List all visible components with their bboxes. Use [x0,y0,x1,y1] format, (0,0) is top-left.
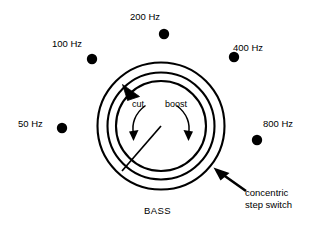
freq-label-200-hz: 200 Hz [130,11,160,22]
cut-arrow-head [129,130,139,141]
freq-label-50-hz: 50 Hz [18,118,43,129]
step-switch-callout-line2: step switch [245,199,292,210]
step-dot-400-hz[interactable] [229,52,239,62]
step-position-group: 50 Hz100 Hz200 Hz400 Hz800 Hz [18,11,293,145]
cut-arc-arrow [133,106,146,134]
cut-label: cut [132,99,145,109]
freq-label-100-hz: 100 Hz [52,38,82,49]
boost-arrow-head [184,130,194,141]
boost-arc-arrow [177,106,190,134]
callout-shaft [222,174,246,191]
step-switch-callout-line1: concentric [245,187,289,198]
step-dot-200-hz[interactable] [159,29,169,39]
step-dot-50-hz[interactable] [57,123,67,133]
knob-pointer-line [122,126,161,171]
freq-label-400-hz: 400 Hz [233,42,263,53]
diagram-canvas: cut boost BASS concentric step switch 50… [0,0,311,230]
boost-label: boost [165,99,188,109]
bass-knob-diagram: cut boost BASS concentric step switch 50… [0,0,311,230]
knob-name-label: BASS [144,205,171,216]
step-dot-100-hz[interactable] [87,54,97,64]
freq-label-800-hz: 800 Hz [263,118,293,129]
step-dot-800-hz[interactable] [252,135,262,145]
